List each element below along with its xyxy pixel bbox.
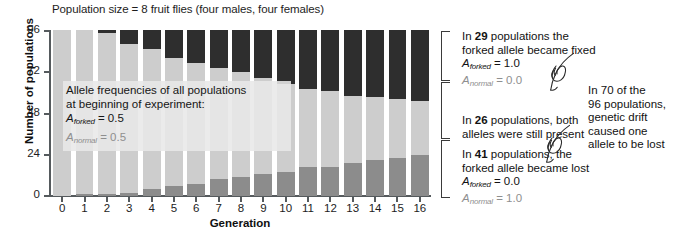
drift-line-1: In 70 of the (588, 84, 666, 98)
bar-segment-lost (120, 193, 138, 196)
bracket-lost-group (441, 140, 450, 198)
y-tick-label: 48 (8, 106, 40, 118)
drift-line-2: 96 populations, (588, 98, 666, 112)
annotation-lost-allele-forked: Aforked = 0.0 (462, 175, 589, 192)
bar-generation-13 (344, 30, 362, 196)
x-tick-label: 11 (296, 202, 320, 214)
anno-text: populations the (488, 30, 569, 42)
bar-segment-lost (299, 167, 317, 196)
allele-symbol-a: A (66, 112, 74, 124)
bar-segment-lost (411, 155, 429, 197)
x-tick-label: 4 (140, 202, 164, 214)
bar-segment-lost (98, 194, 116, 196)
allele-normal-value: = 0.5 (100, 131, 126, 143)
x-tick-label: 14 (363, 202, 387, 214)
note-forked-frequency: Aforked = 0.5 (66, 111, 288, 129)
bar-segment-fixed (366, 30, 384, 97)
x-tick-label: 15 (385, 202, 409, 214)
bar-segment-both (411, 101, 429, 155)
bar-segment-fixed (98, 30, 116, 33)
allele-value: = 0.0 (496, 74, 522, 86)
x-tick-label: 10 (274, 202, 298, 214)
bracket-fixed-group (441, 31, 450, 81)
annotation-genetic-drift: In 70 of the 96 populations, genetic dri… (588, 84, 666, 152)
x-tick-label: 3 (117, 202, 141, 214)
bar-segment-both (344, 96, 362, 163)
x-tick-label: 12 (318, 202, 342, 214)
x-tick-label: 1 (73, 202, 97, 214)
bar-segment-lost (210, 179, 228, 196)
bar-segment-lost (344, 163, 362, 196)
allele-symbol-a: A (462, 192, 470, 204)
bracket-both-group (441, 82, 450, 139)
bar-segment-lost (143, 189, 161, 196)
annotation-lost-allele-normal: Anormal = 1.0 (462, 192, 589, 209)
y-tick-mark (44, 154, 50, 156)
bar-segment-lost (76, 194, 94, 196)
x-tick-label: 8 (229, 202, 253, 214)
x-tick-label: 5 (162, 202, 186, 214)
bar-segment-lost (366, 160, 384, 196)
bar-segment-fixed (254, 30, 272, 78)
drift-line-4: caused one (588, 125, 666, 139)
allele-symbol-a: A (462, 175, 470, 187)
allele-forked-value: = 0.5 (98, 112, 124, 124)
allele-value: = 1.0 (496, 192, 522, 204)
bar-generation-14 (366, 30, 384, 196)
x-tick-label: 2 (95, 202, 119, 214)
bar-generation-11 (299, 30, 317, 196)
bar-segment-both (321, 91, 339, 167)
bar-segment-lost (321, 167, 339, 196)
x-tick-label: 6 (184, 202, 208, 214)
note-normal-frequency: Anormal = 0.5 (66, 130, 288, 148)
bar-segment-lost (187, 184, 205, 196)
y-tick-label: 72 (8, 64, 40, 76)
allele-subscript-normal: normal (470, 197, 493, 206)
bar-segment-fixed (299, 30, 317, 89)
x-axis-title: Generation (49, 217, 431, 229)
y-tick-label: 0 (8, 188, 40, 200)
x-tick-label: 7 (207, 202, 231, 214)
allele-subscript-forked: forked (470, 180, 491, 189)
bar-segment-fixed (232, 30, 250, 72)
anno-count: 26 (475, 114, 488, 126)
bar-segment-both (366, 97, 384, 159)
bar-segment-fixed (344, 30, 362, 96)
anno-text: In (462, 148, 475, 160)
bar-segment-lost (232, 177, 250, 196)
allele-symbol-a: A (462, 74, 470, 86)
note-line-1: Allele frequencies of all populations (66, 83, 288, 97)
allele-symbol-a: A (462, 57, 470, 69)
allele-value: = 0.0 (494, 175, 520, 187)
drift-line-3: genetic drift (588, 111, 666, 125)
y-tick-mark (44, 71, 50, 73)
drift-line-5: allele to be lost (588, 138, 666, 152)
bar-segment-lost (389, 158, 407, 196)
anno-count: 29 (475, 30, 488, 42)
bar-segment-fixed (210, 30, 228, 68)
bar-segment-fixed (389, 30, 407, 99)
allele-subscript-normal: normal (74, 136, 97, 145)
bar-generation-15 (389, 30, 407, 196)
allele-subscript-normal: normal (470, 79, 493, 88)
x-tick-label: 13 (341, 202, 365, 214)
y-tick-mark (44, 113, 50, 115)
anno-text: In (462, 114, 475, 126)
bar-segment-lost (165, 186, 183, 196)
bar-generation-16 (411, 30, 429, 196)
bar-segment-fixed (165, 30, 183, 58)
bar-segment-fixed (277, 30, 295, 84)
x-tick-label: 9 (251, 202, 275, 214)
allele-value: = 1.0 (494, 57, 520, 69)
chart-title: Population size = 8 fruit flies (four ma… (52, 3, 324, 15)
anno-text: In (462, 30, 475, 42)
bar-segment-fixed (143, 30, 161, 49)
y-tick-label: 24 (8, 147, 40, 159)
allele-subscript-forked: forked (74, 117, 95, 126)
bar-segment-lost (277, 172, 295, 196)
bar-segment-both (389, 99, 407, 158)
bar-segment-fixed (411, 30, 429, 101)
allele-subscript-forked: forked (470, 62, 491, 71)
allele-symbol-a: A (66, 131, 74, 143)
annotation-fixed-line1: In 29 populations the (462, 30, 596, 44)
